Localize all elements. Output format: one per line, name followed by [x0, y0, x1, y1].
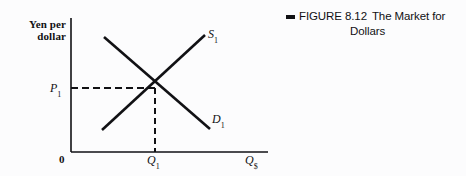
x-axis-end-letter: Q: [245, 153, 254, 167]
square-bullet-icon: [286, 15, 295, 19]
origin-label: 0: [59, 153, 65, 165]
price-label-subscript: 1: [57, 90, 61, 99]
y-axis-title-line-2: dollar: [6, 30, 66, 42]
demand-curve-label: D1: [212, 112, 225, 128]
x-axis-end-subscript: $: [254, 162, 258, 171]
y-axis-title-line-1: Yen per: [6, 18, 66, 30]
chart-panel: Yen per dollar 0 P1 Q1 Q$ S1 D1: [0, 0, 280, 176]
y-axis-title: Yen per dollar: [6, 18, 66, 42]
equilibrium-quantity-label: Q1: [147, 153, 160, 169]
supply-label-subscript: 1: [214, 36, 218, 45]
figure-caption-text: FIGURE 8.12The Market for Dollars: [299, 9, 445, 38]
x-axis-end-label: Q$: [245, 153, 258, 169]
figure-container: Yen per dollar 0 P1 Q1 Q$ S1 D1 FI: [0, 0, 466, 176]
figure-number: FIGURE 8.12: [299, 10, 367, 22]
quantity-label-subscript: 1: [156, 162, 160, 171]
demand-label-letter: D: [212, 112, 221, 126]
supply-curve-label: S1: [208, 27, 218, 43]
figure-caption-line-1: FIGURE 8.12The Market for: [299, 9, 445, 24]
figure-title-line-2: Dollars: [350, 24, 445, 39]
demand-label-subscript: 1: [221, 121, 225, 130]
figure-title-line-1: The Market for: [372, 10, 445, 22]
quantity-label-letter: Q: [147, 153, 156, 167]
figure-caption: FIGURE 8.12The Market for Dollars: [286, 9, 464, 38]
equilibrium-price-label: P1: [50, 81, 61, 97]
